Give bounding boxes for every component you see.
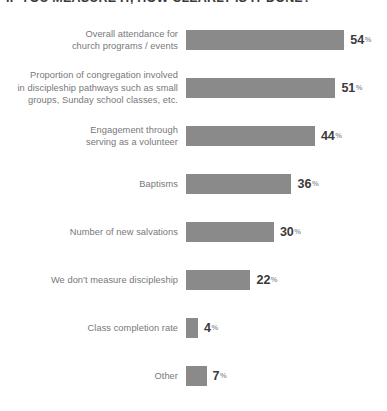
bar-track: 22% bbox=[186, 270, 278, 290]
bar-value-number: 36 bbox=[297, 177, 311, 191]
bar-value-number: 51 bbox=[341, 81, 355, 95]
percent-symbol: % bbox=[271, 275, 278, 284]
bar bbox=[186, 222, 274, 242]
bar-track: 7% bbox=[186, 366, 227, 386]
percent-symbol: % bbox=[365, 35, 372, 44]
bar-category-label: Overall attendance for church programs /… bbox=[0, 28, 178, 53]
chart-row: Proportion of congregation involved in d… bbox=[0, 64, 387, 112]
bar-zone: 4% bbox=[178, 304, 387, 352]
bar-zone: 36% bbox=[178, 160, 387, 208]
chart-title-clip: IF YOU MEASURE IT, HOW CLEARLY IS IT DON… bbox=[0, 0, 387, 7]
bar-zone: 7% bbox=[178, 352, 387, 400]
bar-zone: 51% bbox=[178, 64, 387, 112]
bar-value-label: 51% bbox=[341, 82, 362, 95]
chart-row: Baptisms36% bbox=[0, 160, 387, 208]
bar-track: 4% bbox=[186, 318, 218, 338]
bar-zone: 44% bbox=[178, 112, 387, 160]
bar-track: 54% bbox=[186, 30, 371, 50]
chart-row: Other7% bbox=[0, 352, 387, 400]
bar-value-number: 30 bbox=[280, 225, 294, 239]
bar-category-label: Class completion rate bbox=[0, 322, 178, 334]
bar-chart: IF YOU MEASURE IT, HOW CLEARLY IS IT DON… bbox=[0, 0, 387, 411]
bar-value-number: 54 bbox=[350, 33, 364, 47]
chart-row: Overall attendance for church programs /… bbox=[0, 16, 387, 64]
chart-row: We don't measure discipleship22% bbox=[0, 256, 387, 304]
bar bbox=[186, 78, 335, 98]
percent-symbol: % bbox=[211, 323, 218, 332]
bar-category-label: Proportion of congregation involved in d… bbox=[0, 69, 178, 106]
bar-value-number: 7 bbox=[213, 369, 220, 383]
bar-zone: 30% bbox=[178, 208, 387, 256]
bar bbox=[186, 270, 250, 290]
percent-symbol: % bbox=[294, 227, 301, 236]
bar-zone: 22% bbox=[178, 256, 387, 304]
bar-track: 30% bbox=[186, 222, 301, 242]
chart-plot-area: Overall attendance for church programs /… bbox=[0, 16, 387, 411]
bar-category-label: Engagement through serving as a voluntee… bbox=[0, 124, 178, 149]
bar-value-label: 54% bbox=[350, 34, 371, 47]
bar-category-label: Other bbox=[0, 370, 178, 382]
bar-value-label: 36% bbox=[297, 178, 318, 191]
bar-value-number: 22 bbox=[256, 273, 270, 287]
chart-row: Number of new salvations30% bbox=[0, 208, 387, 256]
chart-row: Class completion rate4% bbox=[0, 304, 387, 352]
bar bbox=[186, 366, 207, 386]
bar-zone: 54% bbox=[178, 16, 387, 64]
bar-value-label: 30% bbox=[280, 226, 301, 239]
bar-value-label: 7% bbox=[213, 370, 227, 383]
bar-value-label: 44% bbox=[321, 130, 342, 143]
chart-row: Engagement through serving as a voluntee… bbox=[0, 112, 387, 160]
bar bbox=[186, 30, 344, 50]
bar-track: 44% bbox=[186, 126, 342, 146]
bar bbox=[186, 174, 291, 194]
percent-symbol: % bbox=[356, 83, 363, 92]
bar-value-number: 4 bbox=[204, 321, 211, 335]
bar-category-label: Baptisms bbox=[0, 178, 178, 190]
bar-category-label: We don't measure discipleship bbox=[0, 274, 178, 286]
bar bbox=[186, 126, 315, 146]
bar-value-label: 22% bbox=[256, 274, 277, 287]
percent-symbol: % bbox=[312, 179, 319, 188]
percent-symbol: % bbox=[220, 371, 227, 380]
percent-symbol: % bbox=[335, 131, 342, 140]
bar-track: 51% bbox=[186, 78, 363, 98]
bar bbox=[186, 318, 198, 338]
bar-value-label: 4% bbox=[204, 322, 218, 335]
chart-title: IF YOU MEASURE IT, HOW CLEARLY IS IT DON… bbox=[6, 0, 311, 5]
bar-track: 36% bbox=[186, 174, 319, 194]
bar-value-number: 44 bbox=[321, 129, 335, 143]
bar-category-label: Number of new salvations bbox=[0, 226, 178, 238]
